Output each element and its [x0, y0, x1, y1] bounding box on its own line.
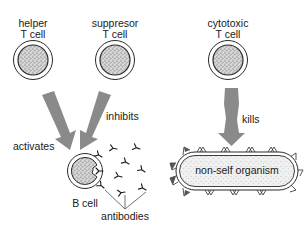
suppressor-t-cell: [96, 41, 135, 80]
helper-label-line2: T cell: [8, 29, 58, 40]
cytotoxic-t-cell: [209, 41, 248, 80]
inhibits-label: inhibits: [106, 111, 139, 122]
antibodies-callout-lines: [105, 190, 146, 209]
kills-label: kills: [242, 114, 260, 125]
helper-t-cell-label: helper T cell: [8, 18, 58, 40]
cytotoxic-t-cell-label: cytotoxic T cell: [198, 18, 258, 40]
cytotoxic-label-line2: T cell: [198, 29, 258, 40]
helper-t-cell: [14, 41, 53, 80]
suppressor-t-cell-label: suppresor T cell: [85, 18, 145, 40]
organism-label: non-self organism: [187, 165, 287, 176]
kills-arrow: [218, 88, 245, 146]
b-cell: [68, 154, 103, 189]
suppressor-label-line2: T cell: [85, 29, 145, 40]
activates-label: activates: [13, 141, 54, 152]
b-cell-label: B cell: [65, 198, 105, 209]
antibodies-label: antibodies: [100, 211, 150, 222]
